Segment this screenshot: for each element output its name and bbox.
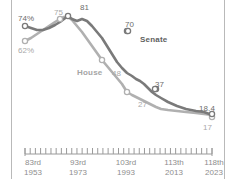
x-tick-label-5: 118th 2023 xyxy=(192,158,236,178)
series-label-house: House xyxy=(77,68,102,77)
x-tick-year-2: 1973 xyxy=(57,168,99,178)
data-point-house-cross xyxy=(57,16,62,21)
x-tick-year-3: 1993 xyxy=(104,168,148,178)
x-tick-year-4: 2013 xyxy=(152,168,196,178)
label-house-end: 17 xyxy=(203,123,212,132)
label-house-cross: 75 xyxy=(54,8,63,17)
data-point-house-mid xyxy=(99,57,104,62)
x-tick-label-1: 83rd 1953 xyxy=(12,158,54,178)
line-chart-plot xyxy=(0,0,237,179)
series-line-senate xyxy=(25,16,212,115)
data-point-house-start xyxy=(22,38,27,43)
x-axis-ticks xyxy=(25,148,212,154)
data-point-senate-70 xyxy=(125,28,130,33)
x-tick-congress-1: 83rd xyxy=(12,158,54,168)
x-tick-congress-4: 113th xyxy=(152,158,196,168)
data-point-senate-peak xyxy=(65,13,70,18)
label-house-late: 27 xyxy=(138,100,147,109)
label-house-mid: 48 xyxy=(112,69,121,78)
label-house-start: 62% xyxy=(18,46,34,55)
label-senate-late: 37 xyxy=(155,80,164,89)
data-point-house-late xyxy=(124,89,129,94)
label-senate-start: 74% xyxy=(18,14,34,23)
x-tick-label-2: 93rd 1973 xyxy=(57,158,99,178)
x-tick-label-3: 103rd 1993 xyxy=(104,158,148,178)
label-senate-mid: 70 xyxy=(125,20,134,29)
x-tick-label-4: 113th 2013 xyxy=(152,158,196,178)
series-label-senate: Senate xyxy=(140,35,167,44)
chart-container: 74% 62% 75 81 70 48 37 27 18.4 17 Senate… xyxy=(0,0,237,179)
x-tick-year-1: 1953 xyxy=(12,168,54,178)
x-tick-congress-3: 103rd xyxy=(104,158,148,168)
label-senate-peak: 81 xyxy=(80,3,89,12)
data-point-senate-start xyxy=(22,23,27,28)
x-tick-congress-2: 93rd xyxy=(57,158,99,168)
x-tick-year-5: 2023 xyxy=(192,168,236,178)
x-tick-congress-5: 118th xyxy=(192,158,236,168)
label-senate-end: 18.4 xyxy=(199,104,215,113)
series-line-house xyxy=(25,17,212,115)
